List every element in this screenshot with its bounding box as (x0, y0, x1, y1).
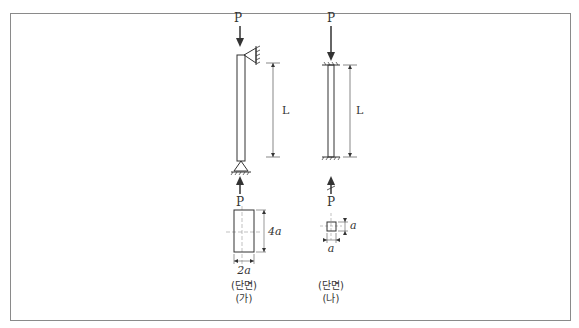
column-body-a (237, 55, 245, 161)
case-label-a: (가) (236, 293, 253, 304)
length-label-b: L (356, 104, 364, 117)
cross-section-a (226, 206, 266, 268)
load-arrow-up-icon (236, 176, 244, 194)
pin-wall-support-icon (244, 46, 260, 65)
load-arrow-up-icon (327, 176, 335, 194)
length-dimension-a (266, 63, 280, 157)
section-caption-a: (단면) (231, 280, 257, 291)
column-a: P (226, 11, 290, 304)
section-caption-b: (단면) (318, 280, 344, 291)
load-label-top-b: P (327, 11, 335, 25)
pin-support-icon (231, 161, 251, 175)
section-width-label-b: a (328, 242, 335, 255)
column-body-b (328, 65, 334, 157)
fixed-support-bottom-icon (322, 157, 340, 160)
load-label-bottom-b: P (327, 195, 335, 209)
load-arrow-down-icon (327, 26, 335, 61)
length-label-a: L (282, 104, 290, 117)
section-height-label-b: a (350, 219, 357, 232)
case-label-b: (나) (323, 293, 340, 304)
load-arrow-down-icon (236, 26, 244, 47)
load-label-top-a: P (234, 11, 242, 25)
load-label-bottom-a: P (236, 195, 244, 209)
cross-section-b (320, 213, 348, 243)
column-diagram: P (0, 0, 579, 328)
column-b: P (318, 11, 364, 304)
section-height-label-a: 4a (267, 225, 282, 238)
section-width-label-a: 2a (236, 264, 251, 277)
length-dimension-b (343, 65, 357, 157)
